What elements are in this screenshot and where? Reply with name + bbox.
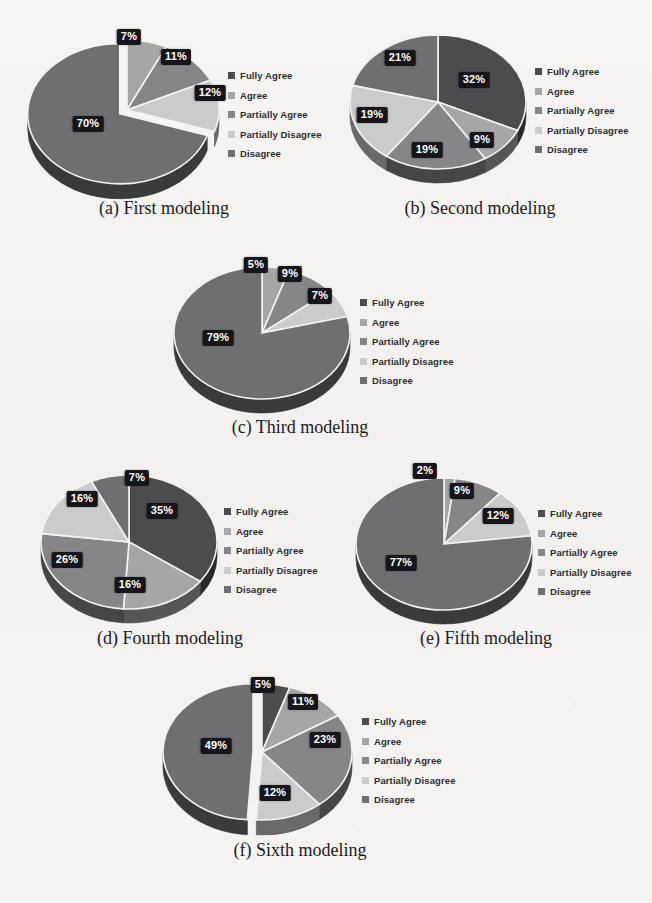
pie-data-label: 7% bbox=[308, 288, 332, 304]
legend-item-disagree[interactable]: Disagree bbox=[228, 144, 322, 164]
legend-item-partially-disagree[interactable]: Partially Disagree bbox=[360, 352, 454, 372]
legend-label: Fully Agree bbox=[236, 506, 288, 517]
legend-label: Agree bbox=[372, 317, 399, 328]
legend-c: Fully AgreeAgreePartially AgreePartially… bbox=[360, 293, 454, 391]
legend-item-partially-agree[interactable]: Partially Agree bbox=[538, 543, 632, 563]
pie-data-label: 19% bbox=[412, 142, 443, 158]
pie-data-label: 7% bbox=[125, 470, 149, 486]
pie-chart-panel-a: 7%11%12%70%Fully AgreeAgreePartially Agr… bbox=[14, 10, 314, 226]
pie-data-label: 16% bbox=[67, 491, 98, 507]
pie-data-label: 11% bbox=[288, 694, 318, 710]
pie-data-label: 49% bbox=[201, 738, 232, 754]
legend-label: Partially Agree bbox=[236, 545, 304, 556]
legend-label: Disagree bbox=[240, 148, 281, 159]
pie-data-label: 11% bbox=[161, 49, 191, 65]
pie-data-label: 21% bbox=[385, 50, 416, 66]
figure-caption-d: (d) Fourth modeling bbox=[22, 628, 318, 649]
legend-swatch-icon bbox=[535, 127, 542, 134]
legend-item-disagree[interactable]: Disagree bbox=[538, 582, 632, 602]
legend-label: Agree bbox=[550, 528, 577, 539]
legend-label: Partially Agree bbox=[547, 105, 615, 116]
legend-label: Fully Agree bbox=[547, 66, 599, 77]
legend-item-disagree[interactable]: Disagree bbox=[360, 371, 454, 391]
legend-swatch-icon bbox=[535, 88, 542, 95]
legend-swatch-icon bbox=[362, 796, 369, 803]
pie-slice-partially-agree[interactable] bbox=[41, 534, 129, 609]
legend-label: Disagree bbox=[550, 586, 591, 597]
pie-data-label: 32% bbox=[459, 72, 490, 88]
legend-item-partially-disagree[interactable]: Partially Disagree bbox=[362, 771, 456, 791]
legend-item-partially-disagree[interactable]: Partially Disagree bbox=[538, 563, 632, 583]
legend-swatch-icon bbox=[538, 549, 545, 556]
pie-chart-panel-e: 2%9%12%77%Fully AgreeAgreePartially Agre… bbox=[338, 452, 634, 656]
legend-swatch-icon bbox=[538, 588, 545, 595]
legend-label: Partially Agree bbox=[240, 109, 308, 120]
pie-data-label: 5% bbox=[251, 677, 275, 693]
legend-label: Partially Agree bbox=[550, 547, 618, 558]
figure-caption-b: (b) Second modeling bbox=[330, 198, 630, 219]
legend-item-disagree[interactable]: Disagree bbox=[535, 140, 629, 160]
legend-swatch-icon bbox=[535, 146, 542, 153]
figure-caption-e: (e) Fifth modeling bbox=[338, 628, 634, 649]
legend-item-agree[interactable]: Agree bbox=[224, 522, 318, 542]
legend-label: Fully Agree bbox=[550, 508, 602, 519]
pie-data-label: 16% bbox=[115, 577, 146, 593]
legend-item-fully-agree[interactable]: Fully Agree bbox=[535, 62, 629, 82]
pie-data-label: 12% bbox=[195, 85, 226, 101]
legend-f: Fully AgreeAgreePartially AgreePartially… bbox=[362, 712, 456, 810]
legend-item-fully-agree[interactable]: Fully Agree bbox=[228, 66, 322, 86]
legend-item-agree[interactable]: Agree bbox=[538, 524, 632, 544]
legend-label: Partially Disagree bbox=[550, 567, 632, 578]
pie-data-label: 79% bbox=[203, 330, 234, 346]
legend-item-fully-agree[interactable]: Fully Agree bbox=[362, 712, 456, 732]
legend-swatch-icon bbox=[360, 338, 367, 345]
legend-label: Agree bbox=[236, 526, 263, 537]
pie-data-label: 5% bbox=[244, 257, 268, 273]
legend-item-disagree[interactable]: Disagree bbox=[362, 790, 456, 810]
legend-item-partially-agree[interactable]: Partially Agree bbox=[360, 332, 454, 352]
legend-item-fully-agree[interactable]: Fully Agree bbox=[538, 504, 632, 524]
legend-label: Fully Agree bbox=[240, 70, 292, 81]
legend-item-partially-agree[interactable]: Partially Agree bbox=[224, 541, 318, 561]
legend-swatch-icon bbox=[224, 586, 231, 593]
legend-swatch-icon bbox=[535, 107, 542, 114]
legend-item-fully-agree[interactable]: Fully Agree bbox=[360, 293, 454, 313]
legend-swatch-icon bbox=[362, 777, 369, 784]
pie-slices-f bbox=[163, 684, 352, 820]
legend-label: Agree bbox=[374, 736, 401, 747]
figure-caption-a: (a) First modeling bbox=[14, 198, 314, 219]
legend-label: Partially Disagree bbox=[547, 125, 629, 136]
legend-item-agree[interactable]: Agree bbox=[360, 313, 454, 333]
legend-item-agree[interactable]: Agree bbox=[228, 86, 322, 106]
legend-label: Partially Disagree bbox=[236, 565, 318, 576]
legend-label: Disagree bbox=[236, 584, 277, 595]
legend-item-partially-disagree[interactable]: Partially Disagree bbox=[224, 561, 318, 581]
pie-data-label: 26% bbox=[52, 552, 83, 568]
legend-item-agree[interactable]: Agree bbox=[362, 732, 456, 752]
legend-swatch-icon bbox=[538, 510, 545, 517]
legend-label: Disagree bbox=[547, 144, 588, 155]
legend-item-fully-agree[interactable]: Fully Agree bbox=[224, 502, 318, 522]
legend-item-agree[interactable]: Agree bbox=[535, 82, 629, 102]
legend-d: Fully AgreeAgreePartially AgreePartially… bbox=[224, 502, 318, 600]
legend-item-partially-disagree[interactable]: Partially Disagree bbox=[228, 125, 322, 145]
legend-item-partially-disagree[interactable]: Partially Disagree bbox=[535, 121, 629, 141]
legend-swatch-icon bbox=[535, 68, 542, 75]
legend-swatch-icon bbox=[362, 738, 369, 745]
pie-data-label: 12% bbox=[483, 508, 514, 524]
pie-chart-panel-f: 5%11%23%12%49%Fully AgreeAgreePartially … bbox=[150, 662, 450, 868]
pie-data-label: 12% bbox=[260, 785, 291, 801]
legend-label: Agree bbox=[547, 86, 574, 97]
legend-swatch-icon bbox=[224, 508, 231, 515]
legend-item-partially-agree[interactable]: Partially Agree bbox=[362, 751, 456, 771]
legend-item-partially-agree[interactable]: Partially Agree bbox=[535, 101, 629, 121]
legend-swatch-icon bbox=[228, 150, 235, 157]
legend-item-partially-agree[interactable]: Partially Agree bbox=[228, 105, 322, 125]
pie-data-label: 19% bbox=[357, 107, 388, 123]
pie-data-label: 9% bbox=[470, 132, 494, 148]
pie-chart-panel-d: 35%16%26%16%7%Fully AgreeAgreePartially … bbox=[22, 452, 318, 656]
legend-swatch-icon bbox=[228, 131, 235, 138]
pie-chart-panel-b: 32%9%19%19%21%Fully AgreeAgreePartially … bbox=[330, 10, 630, 226]
legend-label: Agree bbox=[240, 90, 267, 101]
legend-item-disagree[interactable]: Disagree bbox=[224, 580, 318, 600]
